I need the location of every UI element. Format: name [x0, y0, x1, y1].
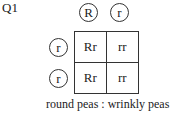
top-allele-1: R	[79, 3, 98, 22]
left-allele-2: r	[49, 69, 68, 88]
punnett-grid: Rr rr Rr rr	[74, 31, 139, 94]
cell-r1c2: rr	[107, 32, 139, 63]
cell-r2c1: Rr	[75, 63, 107, 94]
cell-r2c2: rr	[107, 63, 139, 94]
cell-r1c1: Rr	[75, 32, 107, 63]
ratio-caption: round peas : wrinkly peas	[46, 97, 169, 111]
question-label: Q1	[2, 1, 18, 14]
top-allele-2: r	[110, 3, 129, 22]
left-allele-1: r	[49, 38, 68, 57]
